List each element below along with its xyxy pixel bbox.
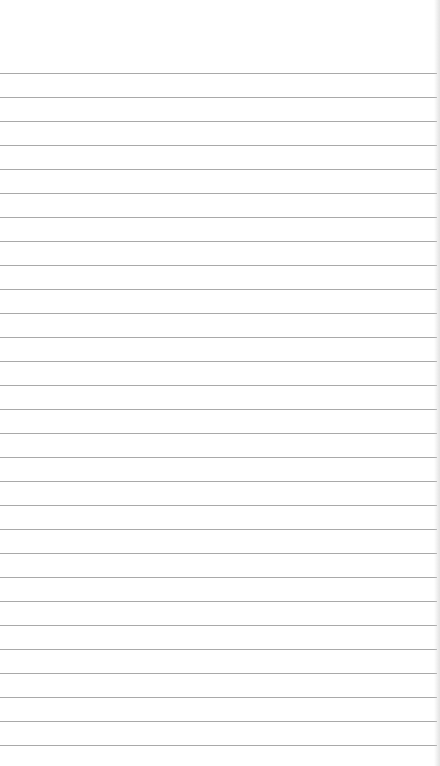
ruled-line [0, 289, 437, 290]
ruled-line [0, 553, 437, 554]
ruled-line [0, 673, 437, 674]
page-edge-shadow [434, 0, 440, 766]
ruled-line [0, 745, 437, 746]
ruled-line [0, 649, 437, 650]
ruled-line [0, 625, 437, 626]
ruled-line [0, 457, 437, 458]
ruled-line [0, 529, 437, 530]
ruled-line [0, 409, 437, 410]
ruled-line [0, 697, 437, 698]
ruled-line [0, 121, 437, 122]
ruled-line [0, 73, 437, 74]
ruled-line [0, 577, 437, 578]
ruled-line [0, 217, 437, 218]
ruled-line [0, 193, 437, 194]
ruled-line [0, 337, 437, 338]
ruled-line [0, 721, 437, 722]
ruled-line [0, 505, 437, 506]
notepad-page [0, 0, 440, 766]
ruled-line [0, 361, 437, 362]
ruled-line [0, 601, 437, 602]
ruled-line [0, 265, 437, 266]
ruled-line [0, 169, 437, 170]
ruled-line [0, 145, 437, 146]
ruled-line [0, 433, 437, 434]
ruled-line [0, 313, 437, 314]
ruled-line [0, 481, 437, 482]
ruled-line [0, 97, 437, 98]
ruled-line [0, 241, 437, 242]
ruled-line [0, 385, 437, 386]
